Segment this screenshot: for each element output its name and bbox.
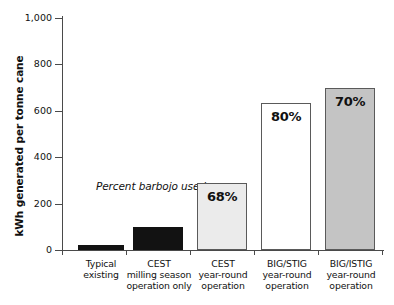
- category-line-2: year-round: [250, 269, 324, 280]
- category-line-2: year-round: [186, 269, 260, 280]
- y-tick-label-600: 600: [6, 106, 52, 116]
- bar-big-istig-year-round: 70%: [325, 88, 375, 250]
- category-label-big-istig-year-round: BIG/ISTIG year-round operation: [314, 258, 388, 292]
- category-line-2: milling season: [122, 269, 196, 280]
- y-tick-label-1000: 1,000: [6, 13, 52, 23]
- category-label-cest-milling-season: CEST milling season operation only: [122, 258, 196, 292]
- category-line-3: operation: [250, 280, 324, 291]
- y-tick-mark-400: [55, 157, 62, 158]
- y-tick-label-400: 400: [6, 152, 52, 162]
- category-label-big-stig-year-round: BIG/STIG year-round operation: [250, 258, 324, 292]
- bar-label-big-stig-year-round: 80%: [262, 109, 310, 124]
- y-tick-mark-200: [55, 204, 62, 205]
- bar-label-big-istig-year-round: 70%: [326, 94, 374, 109]
- x-axis-line: [62, 250, 384, 251]
- category-line-1: CEST: [186, 258, 260, 269]
- y-tick-mark-1000: [55, 18, 62, 19]
- category-line-3: operation: [186, 280, 260, 291]
- y-tick-label-0: 0: [6, 245, 52, 255]
- y-tick-label-800: 800: [6, 59, 52, 69]
- category-line-1: BIG/ISTIG: [314, 258, 388, 269]
- bar-typical-existing: [78, 245, 124, 250]
- bar-label-cest-year-round: 68%: [198, 189, 246, 204]
- bar-chart: kWh generated per tonne cane 0 200 400 6…: [0, 0, 394, 305]
- category-line-3: operation only: [122, 280, 196, 291]
- bar-cest-year-round: 68%: [197, 183, 247, 250]
- category-line-1: BIG/STIG: [250, 258, 324, 269]
- x-tick-mark-4: [318, 250, 319, 255]
- bar-big-stig-year-round: 80%: [261, 103, 311, 250]
- x-tick-mark-3: [254, 250, 255, 255]
- category-label-cest-year-round: CEST year-round operation: [186, 258, 260, 292]
- x-tick-mark-1: [126, 250, 127, 255]
- bar-cest-milling-season: [133, 227, 183, 250]
- x-tick-mark-2: [190, 250, 191, 255]
- percent-barbojo-annotation: Percent barbojo used:: [96, 180, 209, 192]
- y-tick-mark-600: [55, 111, 62, 112]
- category-line-1: CEST: [122, 258, 196, 269]
- y-tick-mark-0: [55, 250, 62, 251]
- y-tick-mark-800: [55, 64, 62, 65]
- y-tick-label-200: 200: [6, 199, 52, 209]
- x-tick-mark-5: [382, 250, 383, 255]
- category-line-3: operation: [314, 280, 388, 291]
- x-tick-mark-0: [62, 250, 63, 255]
- y-axis-title: kWh generated per tonne cane: [13, 41, 25, 251]
- y-axis-line: [62, 16, 63, 252]
- category-line-2: year-round: [314, 269, 388, 280]
